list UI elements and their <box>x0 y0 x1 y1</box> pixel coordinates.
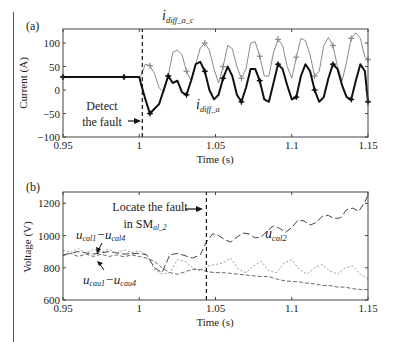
chart-panel-b: (b) 0.9511.051.11.1560080010001200 Time … <box>21 180 378 329</box>
x-tick-label: 1 <box>137 139 143 151</box>
y-tick-label: 1200 <box>38 197 61 209</box>
x-tick-label: 1.05 <box>206 302 226 314</box>
annotation-detect-line2: the fault <box>82 115 122 129</box>
plus-marker-icon <box>147 63 153 69</box>
series-label-ucau1-ucau4: ucau1−ucau4 <box>83 272 136 288</box>
star-marker-icon <box>312 87 318 93</box>
plus-marker-icon <box>293 54 299 60</box>
series-label-ucal2: ucal2 <box>265 226 287 243</box>
arrow-icon-locate <box>185 206 203 212</box>
y-tick-label: 50 <box>49 61 61 73</box>
arrow-icon-ucal <box>96 243 102 254</box>
plus-marker-icon <box>220 64 226 70</box>
x-tick-label: 1.1 <box>285 302 299 314</box>
y-tick-label: −50 <box>43 108 61 120</box>
x-tick-label: 1.1 <box>285 139 299 151</box>
y-tick-label: 600 <box>44 294 61 306</box>
y-tick-label: 800 <box>44 262 61 274</box>
y-axis-label-b: Voltage (V) <box>21 221 34 273</box>
y-tick-label: 1000 <box>38 230 61 242</box>
plus-marker-icon <box>257 53 263 59</box>
series-label-ucal1-ucal4: ucal1−ucal4 <box>76 227 125 243</box>
figure: (a) 0.9511.051.11.15−100−50050100 Time (… <box>0 0 394 342</box>
annotation-locate-line2: in SMal_2 <box>123 217 166 232</box>
series-line-i-diff-a-c <box>63 33 368 93</box>
panel-label-b: (b) <box>26 180 40 194</box>
plus-marker-icon <box>238 75 244 81</box>
chart-panel-a: (a) 0.9511.051.11.15−100−50050100 Time (… <box>17 8 378 166</box>
y-tick-label: 0 <box>55 84 61 96</box>
y-axis-label-a: Current (A) <box>17 57 30 109</box>
x-tick-label: 1.15 <box>358 139 378 151</box>
y-tick-label: 100 <box>44 37 61 49</box>
plus-marker-icon <box>330 42 336 48</box>
star-marker-icon <box>220 75 226 81</box>
panel-label-a: (a) <box>26 19 39 33</box>
star-marker-icon <box>121 74 127 80</box>
x-tick-label: 1.15 <box>358 302 378 314</box>
arrow-icon-ucau <box>97 261 104 270</box>
annotation-detect-line1: Detect <box>86 99 118 113</box>
x-tick-label: 1 <box>137 302 143 314</box>
plus-marker-icon <box>184 68 190 74</box>
x-axis-label-a: Time (s) <box>196 153 234 166</box>
annotation-locate-line1: Locate the fault <box>112 200 188 214</box>
star-marker-icon <box>257 78 263 84</box>
series-label-idiffa: idiff_a <box>196 97 220 114</box>
x-tick-label: 1.05 <box>206 139 226 151</box>
y-tick-label: −100 <box>37 131 60 143</box>
series-label-idiffac: idiff_a_c <box>162 8 194 25</box>
arrow-icon-detect <box>128 118 141 124</box>
x-axis-label-b: Time (s) <box>196 316 234 329</box>
